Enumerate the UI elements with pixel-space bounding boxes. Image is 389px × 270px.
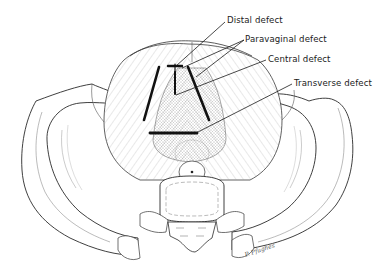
label-central-defect: Central defect	[268, 54, 331, 64]
label-paravaginal-defect: Paravaginal defect	[245, 34, 327, 44]
pelvic-floor-illustration: Distal defect Paravaginal defect Central…	[0, 0, 389, 270]
sacrum	[118, 176, 254, 260]
label-distal-defect: Distal defect	[227, 15, 283, 25]
label-transverse-defect: Transverse defect	[294, 78, 372, 88]
